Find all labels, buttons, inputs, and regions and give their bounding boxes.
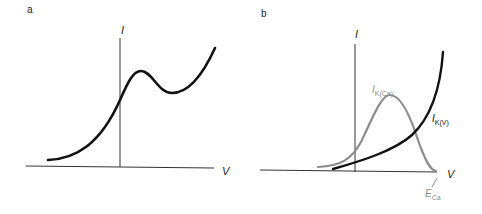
panel-b-eca-label: ECa — [425, 188, 441, 201]
panel-b-x-axis-label: V — [447, 168, 456, 180]
panel-a-x-axis-label: V — [222, 165, 231, 177]
panel-b-eca-leader-line — [432, 178, 437, 187]
panel-a-y-axis-label: I — [121, 24, 124, 36]
panel-b-x-axis — [260, 170, 437, 172]
panel-b-ik-ca-label: IK(Ca) — [372, 84, 393, 98]
panel-b-ik-v-curve — [333, 52, 443, 169]
panel-a: a I V — [26, 4, 231, 177]
panel-b-y-axis-label: I — [355, 28, 358, 40]
panel-b-ik-v-label: IK(V) — [432, 113, 449, 127]
panel-b: b I V IK(Ca) IK(V) ECa — [260, 8, 456, 201]
panel-a-iv-curve — [48, 48, 215, 160]
figure: a I V b I V IK(Ca) IK(V) ECa — [0, 0, 482, 214]
panel-b-ik-ca-curve — [318, 95, 436, 171]
panel-a-label: a — [27, 4, 33, 15]
panel-b-label: b — [261, 8, 267, 19]
